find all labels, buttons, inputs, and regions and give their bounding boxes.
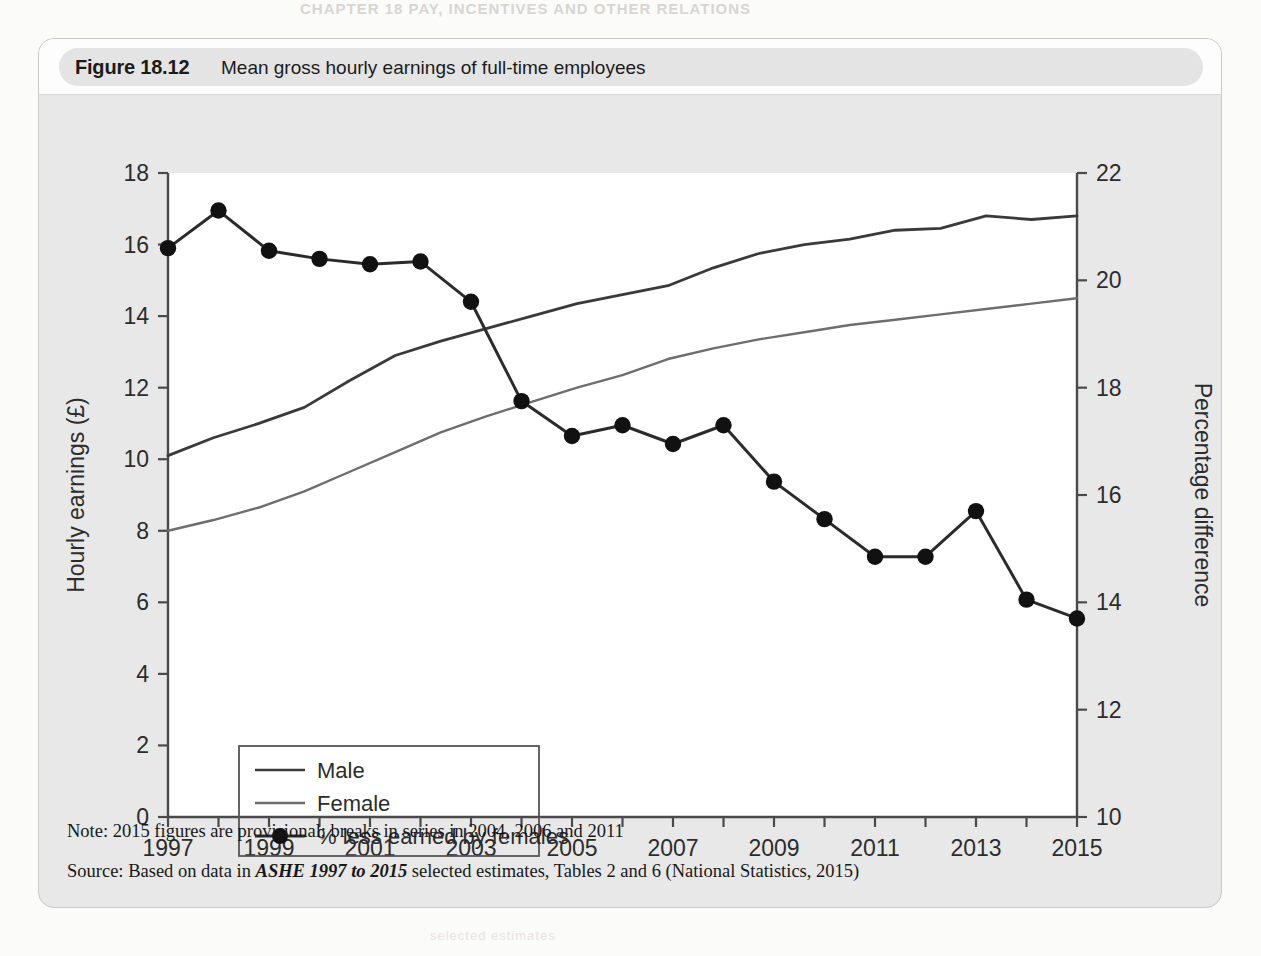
series-marker	[917, 549, 933, 565]
page-root: CHAPTER 18 PAY, INCENTIVES AND OTHER REL…	[0, 0, 1261, 956]
figure-note: Note: 2015 figures are provisional; brea…	[67, 821, 624, 842]
y-axis-left-tick-label: 6	[136, 589, 149, 615]
legend-label-1: Female	[317, 791, 390, 816]
y-axis-right-tick-label: 12	[1096, 697, 1122, 723]
series-marker	[665, 436, 681, 452]
series-marker	[311, 251, 327, 267]
series-marker	[160, 240, 176, 256]
series-marker	[715, 417, 731, 433]
y-axis-left-tick-label: 8	[136, 518, 149, 544]
x-axis-tick-label: 2015	[1051, 835, 1102, 861]
source-suffix: selected estimates, Tables 2 and 6 (Nati…	[407, 861, 859, 881]
chart-plot-area: 024681012141618Hourly earnings (£)101214…	[39, 95, 1221, 907]
y-axis-left-tick-label: 16	[123, 232, 149, 258]
legend-label-0: Male	[317, 758, 365, 783]
series-marker	[968, 503, 984, 519]
y-axis-right-tick-label: 14	[1096, 589, 1122, 615]
y-axis-left-tick-label: 2	[136, 732, 149, 758]
y-axis-left-tick-label: 10	[123, 446, 149, 472]
y-axis-left-tick-label: 4	[136, 661, 149, 687]
series-marker	[362, 256, 378, 272]
figure-number-label: Figure 18.12	[75, 56, 189, 79]
series-marker	[1018, 591, 1034, 607]
x-axis-tick-label: 2007	[647, 835, 698, 861]
page-bleed-bottom-text: selected estimates	[430, 928, 556, 943]
y-axis-left-tick-label: 12	[123, 375, 149, 401]
y-axis-right-tick-label: 20	[1096, 267, 1122, 293]
x-axis-tick-label: 2011	[850, 835, 899, 861]
series-marker	[210, 202, 226, 218]
series-marker	[412, 253, 428, 269]
x-axis-tick-label: 2013	[950, 835, 1001, 861]
series-marker	[766, 473, 782, 489]
series-marker	[867, 549, 883, 565]
source-prefix: Source: Based on data in	[67, 861, 256, 881]
series-marker	[564, 428, 580, 444]
series-marker	[614, 417, 630, 433]
figure-source: Source: Based on data in ASHE 1997 to 20…	[67, 861, 859, 882]
y-axis-right-tick-label: 22	[1096, 160, 1122, 186]
figure-caption: Mean gross hourly earnings of full-time …	[221, 57, 646, 79]
y-axis-right-tick-label: 16	[1096, 482, 1122, 508]
y-axis-left-tick-label: 14	[123, 303, 149, 329]
x-axis-tick-label: 2009	[748, 835, 799, 861]
series-marker	[261, 243, 277, 259]
series-marker	[1069, 610, 1085, 626]
series-marker	[463, 294, 479, 310]
page-bleed-top-text: CHAPTER 18 PAY, INCENTIVES AND OTHER REL…	[300, 0, 751, 17]
y-axis-left-tick-label: 18	[123, 160, 149, 186]
series-marker	[816, 511, 832, 527]
figure-header: Figure 18.12 Mean gross hourly earnings …	[39, 39, 1221, 95]
y-axis-right-title: Percentage difference	[1190, 383, 1216, 608]
source-italic-title: ASHE 1997 to 2015	[256, 861, 408, 881]
series-marker	[513, 393, 529, 409]
y-axis-left-title: Hourly earnings (£)	[63, 397, 89, 593]
earnings-line-chart: 024681012141618Hourly earnings (£)101214…	[39, 95, 1221, 907]
plot-background	[168, 173, 1077, 817]
y-axis-right-tick-label: 18	[1096, 375, 1122, 401]
figure-card: Figure 18.12 Mean gross hourly earnings …	[38, 38, 1222, 908]
y-axis-right-tick-label: 10	[1096, 804, 1122, 830]
